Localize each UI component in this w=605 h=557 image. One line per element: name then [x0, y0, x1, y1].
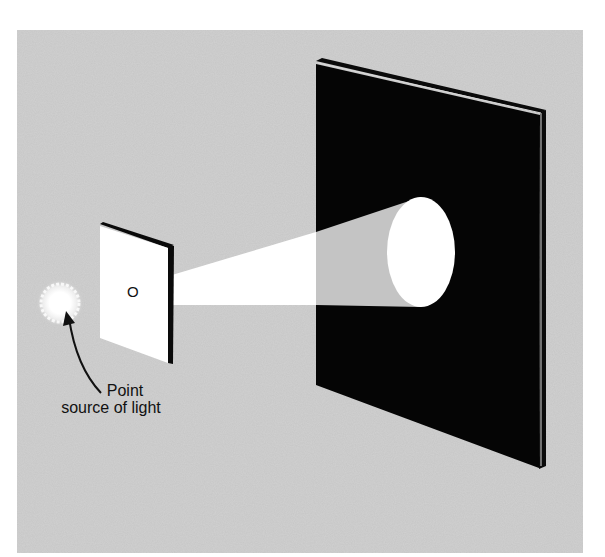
card-edge	[168, 246, 174, 364]
caption-line-2: source of light	[56, 399, 166, 416]
illuminated-spot	[387, 197, 455, 307]
screen-edge	[539, 110, 546, 469]
caption-line-1: Point	[56, 382, 166, 399]
diagram-canvas: O Point source of light	[0, 0, 605, 557]
point-light-source	[51, 294, 71, 314]
annotation-caption: Point source of light	[56, 382, 166, 416]
aperture-label: O	[127, 283, 139, 300]
diagram-svg	[0, 0, 605, 557]
